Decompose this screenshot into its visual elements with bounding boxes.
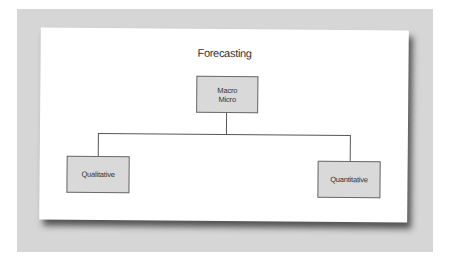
node-macro-micro: Macro Micro [196, 76, 258, 114]
diagram-title: Forecasting [41, 45, 409, 60]
node-qualitative: Qualitative [66, 156, 129, 194]
connector-horizontal [98, 133, 350, 136]
node-quantitative: Quantitative [317, 161, 380, 199]
diagram-card: Forecasting Macro Micro Qualitative Quan… [39, 27, 409, 222]
connector-left-down [98, 133, 99, 156]
connector-root-down [226, 113, 227, 135]
connector-right-down [350, 135, 351, 161]
